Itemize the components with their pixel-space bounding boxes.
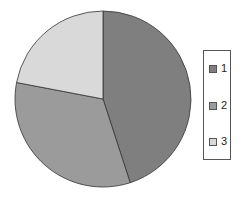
legend: 1 2 3	[203, 50, 231, 160]
legend-item-3: 3	[209, 136, 227, 147]
legend-item-2: 2	[209, 100, 227, 111]
legend-label-2: 2	[221, 100, 227, 111]
legend-swatch-3	[209, 138, 217, 146]
legend-label-1: 1	[221, 63, 227, 74]
legend-swatch-1	[209, 65, 217, 73]
legend-swatch-2	[209, 102, 217, 110]
legend-item-1: 1	[209, 63, 227, 74]
legend-label-3: 3	[221, 136, 227, 147]
